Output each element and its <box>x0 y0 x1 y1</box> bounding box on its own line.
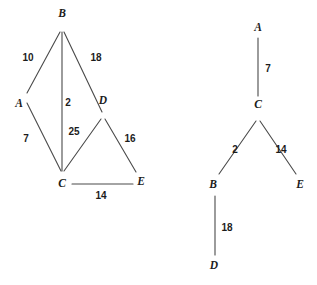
edge-weight-c-b: 2 <box>232 144 238 155</box>
node-label-b: B <box>57 7 66 19</box>
right-graph: 721418ACBED <box>208 21 304 271</box>
edge-weight-c-e: 14 <box>275 144 287 155</box>
edge-a-c <box>27 103 61 171</box>
edge-weight-d-e: 16 <box>124 133 136 144</box>
edge-weight-c-e: 14 <box>95 190 107 201</box>
edge-weight-a-c: 7 <box>265 63 271 74</box>
edge-weight-d-c: 25 <box>68 126 80 137</box>
edge-weight-b-d: 18 <box>90 52 102 63</box>
node-label-a: A <box>253 21 262 33</box>
node-label-c: C <box>254 98 262 110</box>
edge-weight-b-c: 2 <box>65 97 71 108</box>
edge-d-e <box>105 119 136 172</box>
node-label-e: E <box>136 175 145 187</box>
figure-canvas: 101827251614BADCE 721418ACBED <box>0 0 317 285</box>
graph-svg: 101827251614BADCE 721418ACBED <box>0 0 317 285</box>
edge-weight-b-a: 10 <box>22 52 34 63</box>
node-label-e: E <box>295 178 304 190</box>
left-graph: 101827251614BADCE <box>14 7 145 201</box>
edge-weight-a-c: 7 <box>23 133 29 144</box>
edge-weight-b-d: 18 <box>221 222 233 233</box>
node-label-c: C <box>58 177 66 189</box>
node-label-d: D <box>98 94 108 106</box>
node-label-d: D <box>209 259 219 271</box>
node-label-a: A <box>14 97 23 109</box>
node-label-b: B <box>208 178 217 190</box>
